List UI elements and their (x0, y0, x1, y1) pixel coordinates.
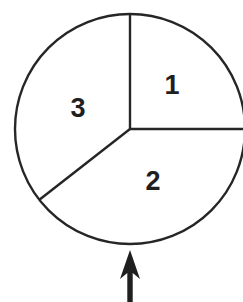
spinner-diagram-canvas: 1 2 3 (0, 0, 243, 302)
sector-2-label: 2 (145, 166, 160, 196)
sector-1-label: 1 (164, 70, 179, 100)
pointer-arrow-icon (120, 250, 140, 302)
sector-3-label: 3 (70, 93, 85, 123)
spinner-figure: 1 2 3 (0, 0, 243, 302)
